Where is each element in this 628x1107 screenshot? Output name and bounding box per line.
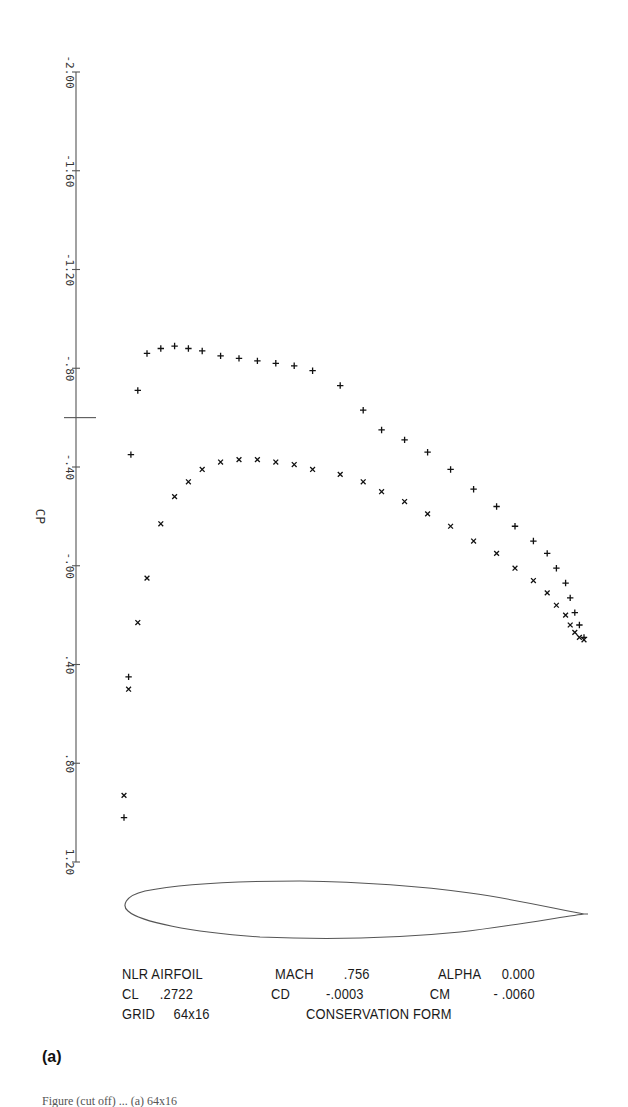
grid-label: GRID	[122, 1004, 174, 1024]
upper-surface-point	[309, 368, 315, 374]
lower-surface-point	[379, 489, 384, 494]
y-tick-label: .80	[63, 753, 76, 773]
upper-surface-point	[470, 486, 476, 492]
y-tick-label: .40	[63, 655, 76, 675]
upper-surface-point	[493, 503, 499, 509]
lower-surface-point	[563, 613, 568, 618]
upper-surface-point	[254, 358, 260, 364]
upper-surface-point	[158, 345, 164, 351]
upper-surface-point	[199, 348, 205, 354]
figure-caption-cutoff: Figure (cut off) ... (a) 64x16	[42, 1094, 602, 1107]
airfoil-outline	[125, 881, 588, 938]
mach-label: MACH	[275, 964, 344, 984]
info-row-1: NLR AIRFOIL MACH.756 ALPHA0.000	[122, 964, 535, 984]
upper-surface-point	[171, 343, 177, 349]
info-row-3: GRID64x16 CONSERVATION FORM	[122, 1004, 535, 1024]
upper-surface-point	[401, 437, 407, 443]
alpha-label: ALPHA	[438, 964, 502, 984]
upper-surface-point	[572, 609, 578, 615]
lower-surface-point	[425, 512, 430, 517]
y-tick-label: -1.20	[63, 253, 76, 286]
y-tick-label: -.40	[63, 454, 76, 481]
cm-value: - .0060	[493, 984, 534, 1004]
grid-value: 64x16	[174, 1004, 210, 1024]
upper-surface-point	[125, 674, 131, 680]
panel-label: (a)	[42, 1048, 62, 1066]
lower-surface-point	[545, 591, 550, 596]
y-tick-label: -1.60	[63, 154, 76, 187]
data-points	[121, 343, 587, 821]
upper-surface-point	[378, 427, 384, 433]
lower-surface-point	[126, 687, 131, 692]
lower-surface-point	[172, 494, 177, 499]
lower-surface-point	[135, 620, 140, 625]
lower-surface-point	[200, 467, 205, 472]
cl-value: .2722	[160, 984, 193, 1004]
upper-surface-point	[144, 350, 150, 356]
lower-surface-point	[145, 576, 150, 581]
upper-surface-point	[567, 595, 573, 601]
lower-surface-point	[292, 462, 297, 467]
y-axis: -2.00-1.60-1.20-.80-.40-.00.40.801.20CP	[33, 55, 96, 875]
upper-surface-point	[128, 451, 134, 457]
mach-value: .756	[344, 964, 370, 984]
lower-surface-point	[448, 524, 453, 529]
y-tick-label: -.00	[63, 553, 76, 580]
upper-surface-point	[337, 382, 343, 388]
y-tick-label: 1.20	[63, 849, 76, 876]
upper-surface-point	[562, 580, 568, 586]
upper-surface-point	[512, 523, 518, 529]
lower-surface-point	[122, 793, 127, 798]
lower-surface-point	[554, 603, 559, 608]
upper-surface-point	[121, 814, 127, 820]
lower-surface-point	[218, 460, 223, 465]
upper-surface-point	[576, 622, 582, 628]
lower-surface-point	[273, 460, 278, 465]
lower-surface-point	[186, 479, 191, 484]
upper-surface-point	[236, 355, 242, 361]
cl-label: CL	[122, 984, 160, 1004]
lower-surface-point	[402, 499, 407, 504]
y-axis-title: CP	[33, 509, 48, 525]
lower-surface-point	[158, 521, 163, 526]
lower-surface-point	[361, 479, 366, 484]
upper-surface-point	[273, 360, 279, 366]
lower-surface-point	[255, 457, 260, 462]
upper-surface-point	[544, 550, 550, 556]
y-tick-label: -.80	[63, 355, 76, 382]
airfoil-name: NLR AIRFOIL	[122, 964, 203, 984]
upper-surface-point	[553, 565, 559, 571]
upper-surface-point	[135, 387, 141, 393]
upper-surface-point	[424, 449, 430, 455]
run-parameters: NLR AIRFOIL MACH.756 ALPHA0.000 CL.2722 …	[122, 964, 535, 1024]
upper-surface-point	[530, 538, 536, 544]
cd-value: -.0003	[326, 984, 364, 1004]
info-row-2: CL.2722 CD-.0003 CM- .0060	[122, 984, 535, 1004]
lower-surface-point	[531, 578, 536, 583]
cm-label: CM	[430, 984, 494, 1004]
lower-surface-point	[513, 566, 518, 571]
upper-surface-point	[217, 353, 223, 359]
lower-surface-point	[471, 539, 476, 544]
lower-surface-point	[494, 551, 499, 556]
lower-surface-point	[310, 467, 315, 472]
formulation-label: CONSERVATION FORM	[306, 1004, 452, 1024]
lower-surface-point	[568, 623, 573, 628]
lower-surface-point	[237, 457, 242, 462]
alpha-value: 0.000	[502, 964, 535, 984]
lower-surface-point	[338, 472, 343, 477]
upper-surface-point	[447, 466, 453, 472]
cp-distribution-chart: -2.00-1.60-1.20-.80-.40-.00.40.801.20CP	[0, 0, 628, 1107]
upper-surface-point	[291, 363, 297, 369]
y-tick-label: -2.00	[63, 55, 76, 88]
upper-surface-point	[360, 407, 366, 413]
lower-surface-point	[572, 630, 577, 635]
cd-label: CD	[271, 984, 326, 1004]
upper-surface-point	[185, 345, 191, 351]
